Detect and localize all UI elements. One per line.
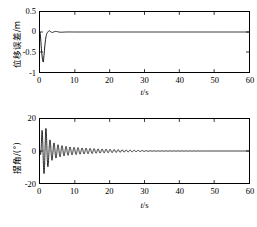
- x-axis-unit-bottom: /s: [143, 200, 149, 210]
- y-tick-label: 0: [0, 27, 36, 36]
- panel-displacement-error: 位移误差/m 0.5 0 -0.5 -1 0 10 20 30 40 50 60…: [0, 0, 257, 112]
- plot-area-swing-angle: [39, 118, 250, 184]
- figure-container: 位移误差/m 0.5 0 -0.5 -1 0 10 20 30 40 50 60…: [0, 0, 257, 227]
- x-tick-label: 0: [25, 76, 53, 85]
- y-tick-label: 0: [0, 147, 36, 156]
- x-tick-label: 20: [95, 76, 123, 85]
- plot-area-displacement-error: [39, 11, 250, 73]
- x-axis-unit-top: /s: [143, 87, 149, 97]
- x-tick-label: 60: [236, 187, 257, 196]
- x-tick-label: 60: [236, 76, 257, 85]
- plot-svg-swing-angle: [40, 119, 249, 183]
- x-tick-label: 40: [166, 187, 194, 196]
- y-tick-label: 20: [0, 114, 36, 123]
- x-tick-label: 0: [25, 187, 53, 196]
- y-tick-label: 0.5: [0, 7, 36, 16]
- x-tick-label: 30: [131, 76, 159, 85]
- x-tick-label: 50: [201, 187, 229, 196]
- x-tick-label: 40: [166, 76, 194, 85]
- x-tick-label: 10: [60, 76, 88, 85]
- x-tick-label: 20: [95, 187, 123, 196]
- y-tick-label: -0.5: [0, 48, 36, 57]
- plot-svg-displacement-error: [40, 12, 249, 72]
- x-axis-label-bottom: t/s: [120, 200, 170, 210]
- x-tick-label: 50: [201, 76, 229, 85]
- panel-swing-angle: 摆角/(°) 20 0 -20 0 10 20 30 40 50 60 t/s: [0, 112, 257, 227]
- x-axis-label-top: t/s: [120, 87, 170, 97]
- x-tick-label: 30: [131, 187, 159, 196]
- x-tick-label: 10: [60, 187, 88, 196]
